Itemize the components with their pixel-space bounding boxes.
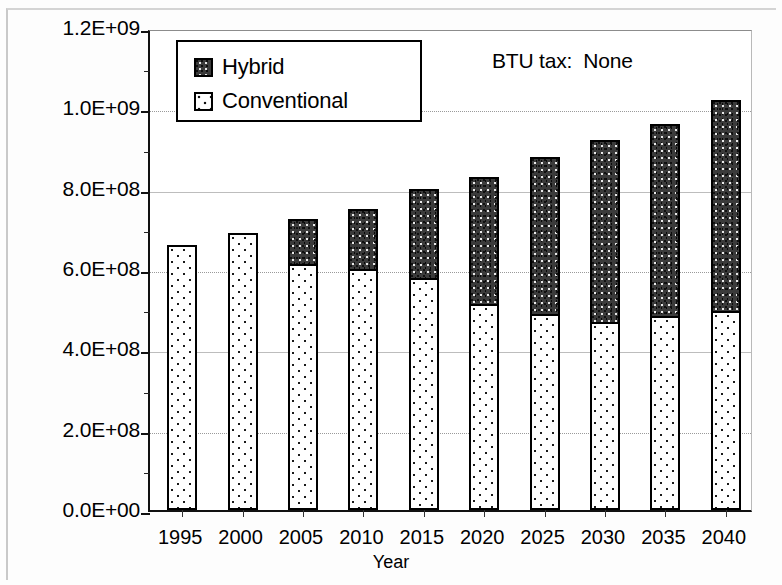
x-axis-tick-label: 2010 — [339, 526, 384, 549]
x-axis-tick — [182, 510, 183, 517]
x-axis-tick — [605, 510, 606, 517]
bar-segment-conventional — [650, 316, 680, 510]
bar-segment-hybrid — [590, 140, 620, 324]
y-axis-tick-label: 6.0E+08 — [63, 257, 140, 281]
y-axis-tick-label: 8.0E+08 — [63, 177, 140, 201]
x-axis-tick-label: 2020 — [460, 526, 505, 549]
x-axis-tick — [484, 510, 485, 517]
bar-segment-hybrid — [469, 177, 499, 306]
bar-segment-hybrid — [348, 209, 378, 271]
x-axis-tick — [726, 510, 727, 517]
bar-2000 — [228, 233, 258, 510]
x-axis-title: Year — [0, 552, 782, 573]
y-axis-tick-major — [141, 192, 150, 194]
y-axis-tick-minor — [144, 393, 150, 394]
bar-segment-conventional — [288, 264, 318, 510]
legend-swatch-hybrid-icon — [194, 58, 213, 77]
bar-segment-hybrid — [711, 100, 741, 313]
y-axis-tick-major — [141, 272, 150, 274]
legend-swatch-conventional-icon — [194, 92, 213, 111]
x-axis-tick — [545, 510, 546, 517]
bar-2015 — [409, 189, 439, 510]
x-axis-tick-label: 2030 — [581, 526, 626, 549]
x-axis-tick — [243, 510, 244, 517]
y-axis-tick-label: 4.0E+08 — [63, 337, 140, 361]
bar-segment-conventional — [409, 278, 439, 510]
x-axis-tick-label: 1995 — [158, 526, 203, 549]
legend-label-conventional: Conventional — [222, 88, 348, 114]
y-axis-tick-minor — [144, 473, 150, 474]
x-axis-tick-label: 2040 — [702, 526, 747, 549]
bar-segment-hybrid — [650, 124, 680, 318]
x-axis-tick — [424, 510, 425, 517]
y-axis-tick-minor — [144, 71, 150, 72]
x-axis-tick-label: 2025 — [520, 526, 565, 549]
legend-label-hybrid: Hybrid — [222, 54, 284, 80]
bar-segment-conventional — [711, 311, 741, 510]
y-axis-tick-minor — [144, 312, 150, 313]
bar-segment-conventional — [167, 245, 197, 510]
bar-2035 — [650, 124, 680, 510]
x-axis-tick-label: 2035 — [641, 526, 686, 549]
y-axis-tick-label: 2.0E+08 — [63, 418, 140, 442]
bar-segment-conventional — [228, 233, 258, 510]
x-axis-tick-label: 2000 — [218, 526, 263, 549]
y-axis-tick-major — [141, 352, 150, 354]
bar-segment-hybrid — [530, 157, 560, 316]
bar-2025 — [530, 157, 560, 510]
x-axis-tick-label: 2015 — [400, 526, 445, 549]
x-axis-tick — [303, 510, 304, 517]
bar-2010 — [348, 209, 378, 510]
bar-2005 — [288, 219, 318, 510]
y-axis-tick-major — [141, 513, 150, 515]
y-axis-tick-label: 1.0E+09 — [63, 96, 140, 120]
y-axis-tick-label: 1.2E+09 — [63, 16, 140, 40]
chart-legend: Hybrid Conventional — [176, 40, 422, 122]
bar-segment-conventional — [530, 314, 560, 510]
bar-2020 — [469, 177, 499, 510]
y-axis-tick-label: 0.0E+00 — [63, 498, 140, 522]
bar-2030 — [590, 140, 620, 510]
bar-segment-conventional — [469, 304, 499, 510]
chart-figure: 0.0E+002.0E+084.0E+086.0E+088.0E+081.0E+… — [0, 0, 782, 585]
legend-item-conventional: Conventional — [194, 85, 420, 117]
legend-item-hybrid: Hybrid — [194, 51, 420, 83]
y-axis-tick-major — [141, 111, 150, 113]
chart-annotation: BTU tax: None — [492, 49, 633, 73]
x-axis-tick-label: 2005 — [279, 526, 324, 549]
x-axis-tick — [665, 510, 666, 517]
bar-segment-conventional — [590, 322, 620, 510]
y-axis-tick-minor — [144, 232, 150, 233]
bar-segment-conventional — [348, 269, 378, 510]
bar-1995 — [167, 245, 197, 510]
y-axis-tick-major — [141, 31, 150, 33]
y-axis-tick-major — [141, 433, 150, 435]
bar-segment-hybrid — [409, 189, 439, 280]
bar-segment-hybrid — [288, 219, 318, 266]
bar-2040 — [711, 100, 741, 510]
x-axis-tick — [363, 510, 364, 517]
y-axis-tick-minor — [144, 152, 150, 153]
